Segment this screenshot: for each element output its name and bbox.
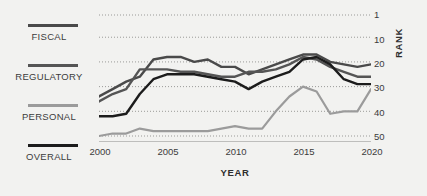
legend-item-fiscal[interactable]: FISCAL bbox=[0, 22, 98, 52]
legend-swatch-personal bbox=[28, 104, 78, 107]
y-tick-30: 30 bbox=[374, 82, 385, 93]
y-tick-10: 10 bbox=[374, 34, 385, 45]
legend-swatch-regulatory bbox=[28, 64, 78, 67]
legend-label-regulatory: REGULATORY bbox=[0, 71, 98, 82]
y-tick-40: 40 bbox=[374, 107, 385, 118]
legend-swatch-fiscal bbox=[28, 24, 78, 27]
chart-figure: FISCAL REGULATORY PERSONAL OVERALL 1 10 … bbox=[0, 0, 427, 196]
x-axis-label: YEAR bbox=[99, 167, 371, 178]
x-tick-2000: 2000 bbox=[80, 146, 120, 157]
legend-label-fiscal: FISCAL bbox=[0, 31, 98, 42]
plot-canvas bbox=[99, 6, 371, 142]
legend-swatch-overall bbox=[28, 144, 78, 147]
legend-label-personal: PERSONAL bbox=[0, 111, 98, 122]
x-tick-2020: 2020 bbox=[352, 146, 392, 157]
x-tick-2005: 2005 bbox=[148, 146, 188, 157]
legend-item-regulatory[interactable]: REGULATORY bbox=[0, 62, 98, 92]
y-tick-50: 50 bbox=[374, 131, 385, 142]
y-tick-20: 20 bbox=[374, 58, 385, 69]
x-tick-2015: 2015 bbox=[284, 146, 324, 157]
y-axis-label: RANK bbox=[393, 28, 404, 58]
legend-item-personal[interactable]: PERSONAL bbox=[0, 102, 98, 132]
plot-area bbox=[99, 6, 371, 142]
y-tick-1: 1 bbox=[374, 9, 379, 20]
series-lines bbox=[99, 55, 371, 136]
x-tick-2010: 2010 bbox=[216, 146, 256, 157]
